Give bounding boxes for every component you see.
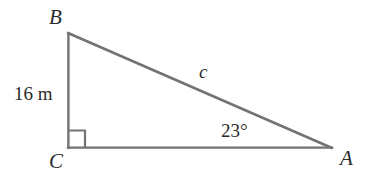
leg-measure-label: 16 m xyxy=(14,84,53,103)
hypotenuse-line xyxy=(68,33,332,148)
vertex-label-a: A xyxy=(340,148,353,169)
right-angle-marker-icon xyxy=(68,131,85,148)
vertex-label-b: B xyxy=(49,7,62,28)
hypotenuse-label: c xyxy=(199,62,207,81)
triangle-diagram: B C A c 16 m 23° xyxy=(0,0,371,183)
angle-label-a: 23° xyxy=(221,121,248,140)
vertex-label-c: C xyxy=(49,151,63,172)
